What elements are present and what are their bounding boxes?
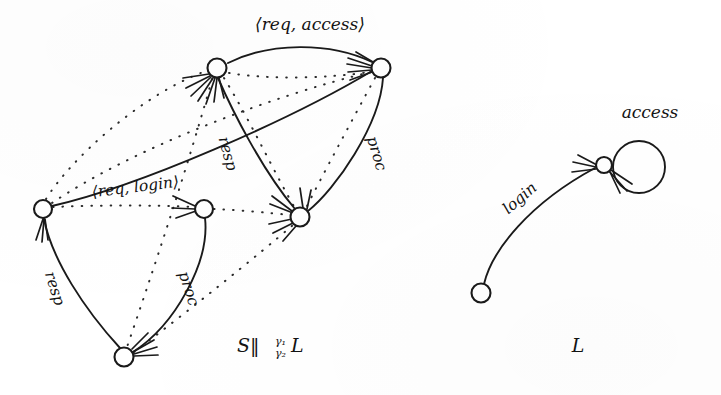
dotted-edge-bottom-rightmid <box>134 225 293 352</box>
node-right-access[interactable] <box>596 157 612 173</box>
dotted-edge-middle-rightmid <box>214 209 291 215</box>
figure-canvas: ⟨req, access⟩ ⟨req, login⟩ resp proc res… <box>0 0 721 395</box>
label-access: access <box>622 102 679 122</box>
arrowhead-selfloop <box>609 170 632 193</box>
label-resp-lower: resp <box>41 269 69 307</box>
label-req-access: ⟨req, access⟩ <box>255 14 365 34</box>
node-top-left[interactable] <box>208 59 227 78</box>
label-proc-right: proc <box>363 134 391 173</box>
edge-req-access <box>228 47 372 63</box>
caption-S-parallel: S‖ <box>237 334 260 357</box>
node-right-mid[interactable] <box>291 208 310 227</box>
caption-L-left: L <box>290 334 304 356</box>
caption-gamma-bottom: γ₂ <box>275 347 286 360</box>
label-proc-lower: proc <box>175 269 203 308</box>
arrowhead-left <box>36 219 48 242</box>
caption-L-right: L <box>571 334 585 356</box>
label-req-login: ⟨req, login⟩ <box>91 173 180 202</box>
node-middle[interactable] <box>195 200 213 218</box>
left-system-group: ⟨req, access⟩ ⟨req, login⟩ resp proc res… <box>34 14 391 367</box>
arrowhead-login <box>572 155 597 172</box>
node-bottom[interactable] <box>115 348 134 367</box>
left-system-caption: S‖ γ₁ γ₂ L <box>237 334 304 360</box>
node-right-start[interactable] <box>472 284 491 303</box>
dotted-edge-left-middle <box>53 206 194 208</box>
dotted-edge-topleft-topright <box>229 72 370 77</box>
right-system-group: login access L <box>472 102 679 356</box>
diagram-svg: ⟨req, access⟩ ⟨req, login⟩ resp proc res… <box>0 0 721 395</box>
node-top-right[interactable] <box>372 59 391 78</box>
label-login: login <box>499 179 540 218</box>
edge-login <box>484 168 595 284</box>
node-left[interactable] <box>34 200 52 218</box>
